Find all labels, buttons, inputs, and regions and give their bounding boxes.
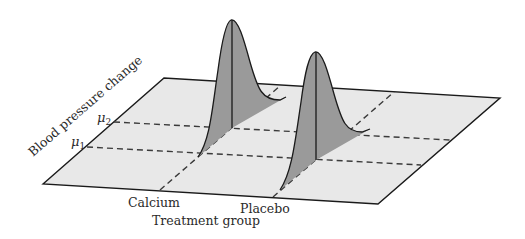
base-plane <box>43 78 500 204</box>
group-label-calcium: Calcium <box>128 195 180 210</box>
mu2-label: μ2 <box>97 110 111 127</box>
mu1-label: μ1 <box>71 134 85 151</box>
x-axis-label: Treatment group <box>152 213 260 228</box>
diagram-canvas: Blood pressure change μ2 μ1 Calcium Plac… <box>0 0 525 239</box>
